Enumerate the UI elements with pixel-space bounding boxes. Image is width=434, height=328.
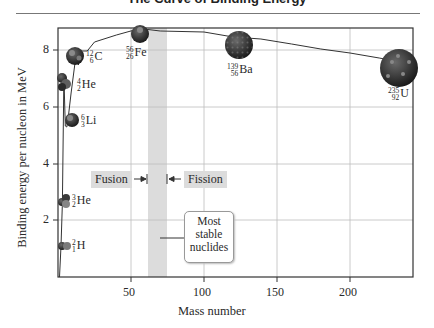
c12-model bbox=[66, 47, 84, 65]
most-stable-callout: Most stable nuclides bbox=[184, 211, 234, 263]
fe56-model bbox=[131, 25, 149, 43]
he4-model bbox=[57, 73, 71, 91]
y-tick-8: 8 bbox=[43, 42, 49, 57]
stable-line-1: Most bbox=[185, 215, 233, 228]
stable-line-3: nuclides bbox=[185, 241, 233, 254]
label-u235: 23592U bbox=[388, 86, 409, 101]
stable-line-2: stable bbox=[185, 228, 233, 241]
fission-label: Fission bbox=[184, 171, 227, 188]
label-he3: 32He bbox=[72, 193, 91, 208]
label-li6: 63Li bbox=[81, 113, 96, 128]
x-tick-150: 150 bbox=[266, 285, 284, 300]
li6-model bbox=[65, 113, 79, 127]
nuclide-models bbox=[57, 25, 418, 250]
y-axis-label: Binding energy per nucleon in MeV bbox=[15, 58, 30, 258]
fusion-label: Fusion bbox=[91, 171, 132, 188]
label-fe56: 5626Fe bbox=[126, 45, 147, 60]
ba139-model bbox=[225, 31, 253, 59]
h2-model bbox=[58, 242, 71, 250]
he3-model bbox=[58, 194, 70, 208]
x-axis-label: Mass number bbox=[178, 304, 246, 319]
x-tick-100: 100 bbox=[193, 285, 211, 300]
y-tick-6: 6 bbox=[43, 99, 49, 114]
label-h2: 21H bbox=[72, 238, 85, 253]
label-c12: 126C bbox=[86, 49, 103, 64]
y-tick-4: 4 bbox=[43, 156, 49, 171]
x-tick-200: 200 bbox=[339, 285, 357, 300]
stable-band bbox=[148, 28, 167, 277]
u235-model bbox=[380, 49, 418, 87]
chart-canvas bbox=[0, 0, 434, 328]
label-he4: 42He bbox=[77, 77, 96, 92]
label-ba139: 13956Ba bbox=[227, 62, 253, 77]
y-tick-2: 2 bbox=[43, 212, 49, 227]
x-tick-50: 50 bbox=[123, 285, 135, 300]
